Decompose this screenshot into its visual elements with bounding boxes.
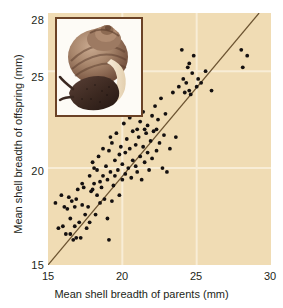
x-axis-label: Mean shell breadth of parents (mm) xyxy=(0,288,283,300)
x-tick-label: 30 xyxy=(250,270,283,282)
x-axis-ticks: 15 20 25 30 xyxy=(0,0,283,308)
x-tick-label: 20 xyxy=(102,270,142,282)
scatter-plot-figure: 28 25 20 15 15 20 25 30 Mean shell bread… xyxy=(0,0,283,308)
x-tick-label: 25 xyxy=(176,270,216,282)
x-tick-label: 15 xyxy=(28,270,68,282)
y-axis-label: Mean shell breadth of offspring (mm) xyxy=(12,24,24,264)
